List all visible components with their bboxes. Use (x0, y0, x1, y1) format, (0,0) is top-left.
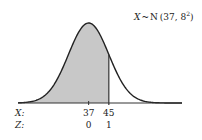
x-tick-label-37: 37 (83, 108, 95, 118)
annotation-label: X~N(37, 82) (133, 10, 194, 22)
z-tick-label-1: 1 (106, 120, 112, 130)
z-row-label: Z: (14, 120, 24, 130)
shaded-area (18, 23, 109, 103)
normal-distribution-chart: X~N(37, 82) X: Z: 37 45 0 1 (0, 0, 202, 140)
z-tick-label-0: 0 (86, 120, 92, 130)
x-row-label: X: (14, 108, 24, 118)
x-tick-label-45: 45 (103, 108, 115, 118)
